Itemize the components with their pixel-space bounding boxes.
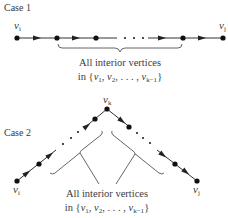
vertex-interior (180, 35, 185, 40)
case2-left-brace (50, 131, 102, 174)
case2-caption-line1: All interior vertices (66, 188, 148, 199)
ellipsis-dot (142, 137, 144, 139)
vertex-vi (14, 35, 19, 40)
case1-caption-line2: in {v1, v2, . . . , vk−1} (78, 71, 162, 84)
vertex-vj (220, 35, 225, 40)
case1-arrow-icon (33, 36, 41, 41)
ellipsis-dot (136, 132, 138, 134)
ellipsis-dot (77, 131, 79, 133)
case2-pointer-line-right (116, 154, 135, 184)
ellipsis-dot (62, 143, 64, 145)
case2-vi-label: vi (13, 183, 20, 197)
ellipsis-dot (70, 137, 72, 139)
vertex-interior (92, 116, 97, 121)
case1-vi-label: vi (14, 19, 21, 33)
case1-arrow-icon (72, 36, 80, 41)
case2-title: Case 2 (4, 127, 31, 138)
case1-caption-line1: All interior vertices (79, 57, 161, 68)
case1-underbrace (58, 44, 182, 52)
vertex-vj (194, 178, 199, 183)
vertex-vk (104, 106, 109, 111)
diagram-canvas: Case 1 vi vj All interior vertices in {v… (0, 0, 228, 218)
case2-caption-line2: in {v1, v2, . . . , vk−1} (65, 202, 149, 215)
vertex-interior (36, 161, 41, 166)
case2-pointer-line-left (80, 153, 99, 184)
ellipsis-dot (124, 37, 126, 39)
vertex-interior (172, 161, 177, 166)
vertex-interior (54, 35, 59, 40)
case2-right-brace (112, 131, 164, 174)
ellipsis-dot (149, 142, 151, 144)
vertex-vi (14, 178, 19, 183)
case2-vj-label: vj (193, 183, 200, 197)
case1-vj-label: vj (219, 19, 226, 33)
case1-group: Case 1 vi vj All interior vertices in {v… (4, 2, 226, 84)
case1-arrow-icon (198, 36, 206, 41)
case1-title: Case 1 (4, 2, 31, 13)
vertex-interior (93, 35, 98, 40)
vertex-interior (126, 124, 131, 129)
ellipsis-dot (133, 37, 135, 39)
case1-arrow-icon (158, 36, 166, 41)
case2-group: Case 2 vk vi vj (4, 93, 200, 215)
ellipsis-dot (142, 37, 144, 39)
case2-vk-label: vk (103, 93, 112, 107)
